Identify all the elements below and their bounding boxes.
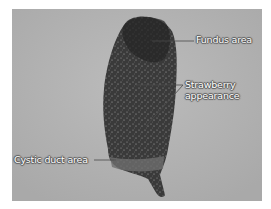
- cystic-duct-area-label: Cystic duct area: [14, 155, 88, 165]
- strawberry-label-line2: appearance: [185, 91, 239, 101]
- strawberry-label-line1: Strawberry: [185, 80, 235, 90]
- fundus-area-label: Fundus area: [196, 35, 252, 45]
- specimen-photo: Fundus area Strawberry appearance Cystic…: [12, 9, 262, 201]
